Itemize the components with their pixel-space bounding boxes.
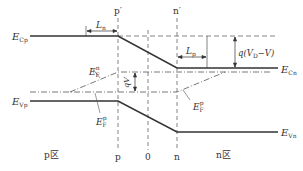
n-label: n [174,152,180,162]
efp-label-right: EFp [192,99,204,113]
p-label: p [115,152,121,162]
barrier-label: q(VD−V) [238,48,274,59]
p-region-label: p区 [44,150,59,160]
n-prime-label: n′ [173,6,181,16]
efp-leader-right [183,90,190,100]
quasi-fermi-level-n [70,72,270,92]
n-region-label: n区 [216,150,231,160]
ecn-label: ECn [280,64,297,76]
boundary-lines [86,18,207,150]
valence-band [30,101,278,132]
barrier-height-arrow [234,37,237,67]
ecp-label: ECp [11,31,28,44]
ln-label: Ln [95,20,106,31]
qv-arrow [134,73,137,91]
zero-label: 0 [145,152,151,162]
efn-label: EFn [88,64,100,78]
efp-label-left: EFp [95,114,107,128]
pn-junction-band-diagram: ECp ECn EVp EVn EFn EFp EFp Ln Lp q(VD−V… [0,0,303,171]
evn-label: EVn [280,127,297,139]
qv-label: qV [122,76,131,88]
lp-label: Lp [185,46,196,58]
p-prime-label: p′ [114,6,122,16]
evp-label: EVp [11,96,28,109]
efp-leader-left [95,93,100,113]
